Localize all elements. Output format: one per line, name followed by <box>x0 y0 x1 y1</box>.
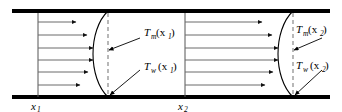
station-2-mean-temp-leader <box>294 38 322 50</box>
station-2-arrows <box>185 22 278 85</box>
station-2-temperature-profile-curve <box>278 11 293 97</box>
station-1-wall-temp-label: T w (x 1 ) <box>144 60 177 75</box>
station-2-axial-subscript: 2 <box>184 105 188 112</box>
station-1-axial-subscript: 1 <box>37 105 41 112</box>
station-2-axial-symbol: x <box>177 100 183 112</box>
station-2-wall-temp-leader <box>295 70 322 95</box>
station-1-temperature-profile-curve <box>93 11 108 97</box>
figure-canvas: T m (x 1 ) T w (x 1 ) x 1 <box>0 0 342 112</box>
station-1-wall-temp-leader <box>110 70 140 95</box>
station-2-axial-label: x 2 <box>177 100 188 112</box>
station-1-arrows <box>38 22 93 85</box>
station-1-wall-temp-subscript: w <box>151 66 156 75</box>
station-2-wall-temp-symbol: T <box>296 59 303 71</box>
station-1-wall-temp-arg-close: ) <box>173 60 177 73</box>
station-2-wall-temp-arg-open: (x <box>310 59 320 72</box>
station-1-mean-temp-arg-open: (x <box>156 26 166 39</box>
station-1-axial-symbol: x <box>30 100 36 112</box>
station-2-mean-temp-arg-open: (x <box>308 23 318 36</box>
station-2-mean-temp-arg-close: ) <box>323 23 327 36</box>
station-1-wall-temp-symbol: T <box>144 60 151 72</box>
station-2-wall-temp-arg-close: ) <box>325 59 329 72</box>
station-1-mean-temp-label: T m (x 1 ) <box>144 26 175 41</box>
station-2-wall-temp-label: T w (x 2 ) <box>296 59 329 74</box>
station-2-mean-temp-symbol: T <box>296 23 303 35</box>
station-1-mean-temp-leader <box>109 38 140 50</box>
top-duct-wall <box>12 9 330 13</box>
station-1-mean-temp-symbol: T <box>144 26 151 38</box>
station-1-axial-label: x 1 <box>30 100 41 112</box>
temperature-profile-figure: T m (x 1 ) T w (x 1 ) x 1 <box>0 0 342 112</box>
bottom-duct-wall <box>12 95 330 99</box>
station-2-wall-temp-subscript: w <box>303 65 308 74</box>
station-1-wall-temp-arg-open: (x <box>158 60 168 73</box>
station-2-mean-temp-label: T m (x 2 ) <box>296 23 327 38</box>
station-1-mean-temp-arg-close: ) <box>171 26 175 39</box>
